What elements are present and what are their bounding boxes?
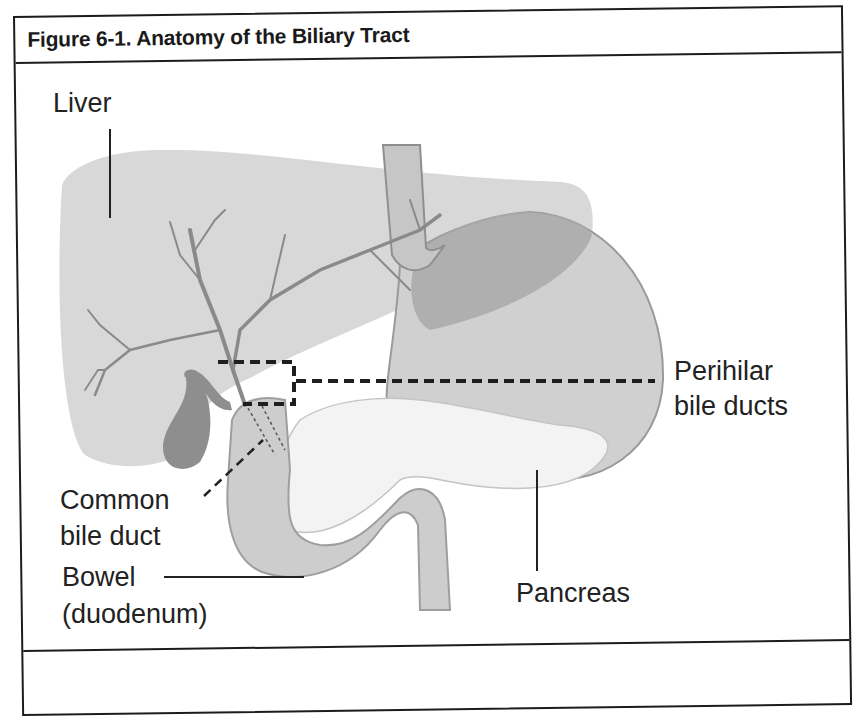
label-common-2: bile duct <box>60 520 161 553</box>
label-bowel-2: (duodenum) <box>62 598 208 631</box>
label-bowel-1: Bowel <box>62 561 136 594</box>
label-common-1: Common <box>60 484 170 517</box>
label-perihilar-2: bile ducts <box>674 390 788 423</box>
label-pancreas: Pancreas <box>516 577 630 610</box>
label-perihilar-1: Perihilar <box>674 355 773 388</box>
label-liver: Liver <box>53 87 112 120</box>
